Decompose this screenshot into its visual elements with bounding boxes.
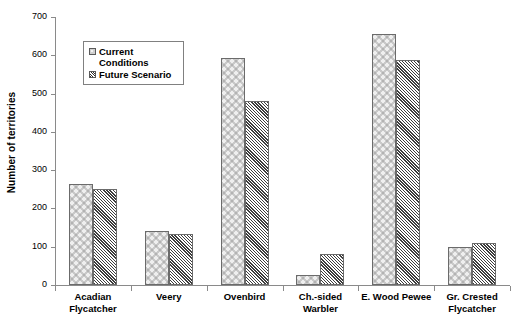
bar-future xyxy=(169,234,193,285)
y-tick-label: 200 xyxy=(21,202,47,212)
y-tick: 600 xyxy=(51,55,56,56)
y-tick: 400 xyxy=(51,132,56,133)
y-tick: 700 xyxy=(51,17,56,18)
bar-future xyxy=(396,60,420,285)
bar-current xyxy=(221,58,245,285)
y-tick-label: 300 xyxy=(21,164,47,174)
bar-chart: Number of territories 010020030040050060… xyxy=(0,0,526,326)
y-axis-title: Number of territories xyxy=(2,0,22,285)
y-tick: 200 xyxy=(51,208,56,209)
y-axis-line xyxy=(55,17,56,285)
y-axis-title-text: Number of territories xyxy=(7,92,18,194)
bar-current xyxy=(372,34,396,285)
bar-future xyxy=(472,243,496,285)
y-tick-label: 400 xyxy=(21,126,47,136)
legend-item-current: Current Conditions xyxy=(89,46,178,68)
y-tick-label: 0 xyxy=(21,279,47,289)
legend-label-current: Current Conditions xyxy=(99,46,149,68)
y-tick: 300 xyxy=(51,170,56,171)
y-tick: 500 xyxy=(51,94,56,95)
bar-current xyxy=(448,247,472,285)
x-axis-category-label: Gr. Crested Flycatcher xyxy=(427,291,517,315)
y-tick-label: 700 xyxy=(21,11,47,21)
legend-swatch-current-icon xyxy=(89,48,96,55)
bar-future xyxy=(245,101,269,285)
y-tick-label: 100 xyxy=(21,241,47,251)
bar-future xyxy=(320,254,344,285)
legend-label-future: Future Scenario xyxy=(99,69,171,80)
y-tick-label: 500 xyxy=(21,88,47,98)
y-tick-label: 600 xyxy=(21,49,47,59)
bar-current xyxy=(296,275,320,285)
bar-current xyxy=(145,231,169,285)
y-tick: 100 xyxy=(51,247,56,248)
bar-future xyxy=(93,189,117,285)
bar-current xyxy=(69,184,93,285)
chart-legend: Current Conditions Future Scenario xyxy=(83,41,184,85)
legend-item-future: Future Scenario xyxy=(89,69,178,80)
legend-swatch-future-icon xyxy=(89,71,96,78)
